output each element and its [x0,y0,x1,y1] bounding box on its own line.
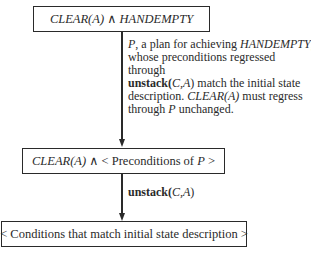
arrowhead-top [119,139,125,147]
initial-state-conditions: < Conditions that match initial state de… [0,227,248,242]
connector-line-bottom [121,174,123,214]
connector-line-top [121,32,123,140]
goal-box-bottom: < Conditions that match initial state de… [1,221,247,247]
arrowhead-bottom [119,213,125,221]
and-symbol: ∧ [86,153,101,169]
and-symbol: ∧ [104,11,119,27]
clear-a-term: CLEAR(A) [32,154,86,169]
goal-box-middle: CLEAR(A) ∧ < Preconditions of P > [22,148,225,174]
operator-label: unstack(C,A) [128,185,194,200]
plan-p-term: P [197,154,205,169]
handempty-term: HANDEMPTY [119,12,193,27]
clear-a-term: CLEAR(A) [50,12,104,27]
note-line-5: through P unchanged. [128,103,308,116]
preconditions-text: < Preconditions of [102,154,198,169]
goal-box-top: CLEAR(A) ∧ HANDEMPTY [33,6,210,32]
note-line-2: whose preconditions regressed through [128,51,308,77]
plan-description-note: P, a plan for achieving HANDEMPTY, whose… [128,38,308,116]
